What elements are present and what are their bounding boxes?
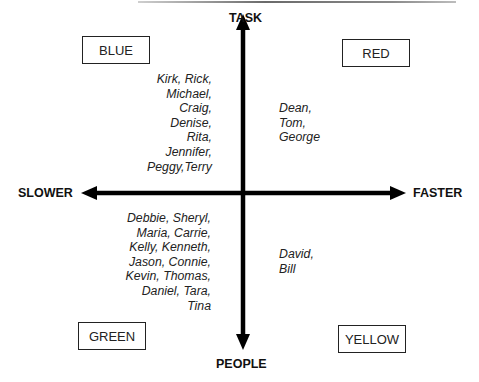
quadrant-label-blue: BLUE: [82, 36, 150, 64]
yellow-quadrant-names: David, Bill: [279, 247, 314, 276]
axis-label-slower: SLOWER: [18, 186, 73, 200]
axis-label-faster: FASTER: [413, 186, 462, 200]
blue-quadrant-names: Kirk, Rick, Michael, Craig, Denise, Rita…: [147, 72, 212, 174]
quadrant-label-yellow: YELLOW: [338, 325, 406, 353]
quadrant-label-red: RED: [342, 39, 410, 67]
quadrant-label-green: GREEN: [78, 322, 146, 350]
arrow-right-icon: [390, 186, 406, 200]
axis-label-task: TASK: [229, 11, 262, 25]
arrow-down-icon: [236, 334, 250, 350]
arrow-left-icon: [81, 186, 97, 200]
green-quadrant-names: Debbie, Sheryl, Maria, Carrie, Kelly, Ke…: [126, 211, 211, 313]
axis-label-people: PEOPLE: [216, 357, 267, 371]
red-quadrant-names: Dean, Tom, George: [279, 101, 320, 145]
